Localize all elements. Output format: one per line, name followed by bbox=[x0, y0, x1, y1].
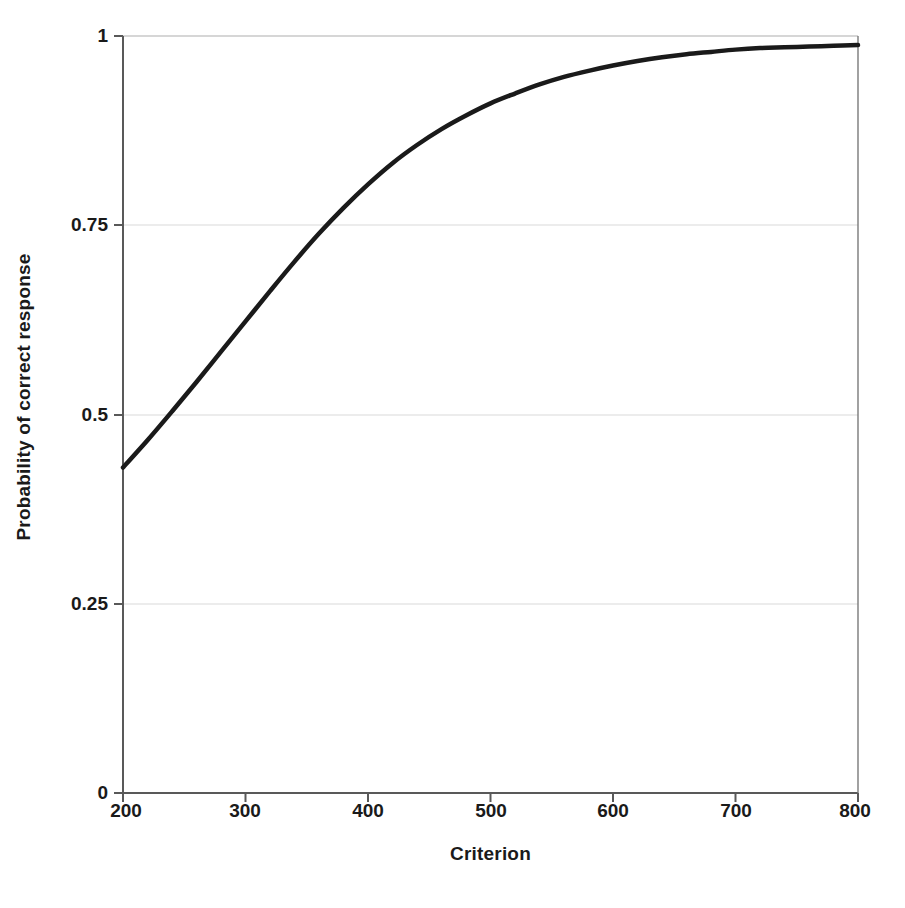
y-axis-ticks bbox=[114, 36, 123, 793]
x-tick-label: 200 bbox=[86, 800, 166, 822]
x-tick-label: 300 bbox=[205, 800, 285, 822]
data-series-line bbox=[123, 45, 858, 467]
x-tick-label: 700 bbox=[696, 800, 776, 822]
x-tick-label: 500 bbox=[451, 800, 531, 822]
chart-figure: Probability of correct response 1 0.75 0… bbox=[0, 0, 905, 908]
x-axis-title: Criterion bbox=[450, 843, 531, 864]
x-tick-label: 400 bbox=[328, 800, 408, 822]
x-axis-title-container: Criterion bbox=[123, 843, 858, 865]
x-tick-label: 800 bbox=[815, 800, 895, 822]
gridlines bbox=[123, 36, 858, 604]
x-tick-label: 600 bbox=[573, 800, 653, 822]
x-axis-tick-labels: 200 300 400 500 600 700 800 bbox=[0, 800, 905, 830]
plot-area bbox=[0, 0, 905, 908]
